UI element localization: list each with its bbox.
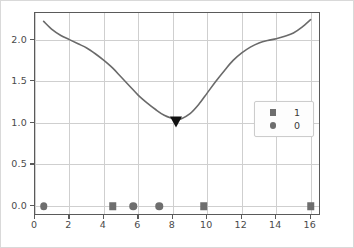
- y-tick-label: 2.0: [1, 33, 27, 44]
- data-point-square: [200, 202, 208, 210]
- data-point-square: [109, 202, 117, 210]
- legend-label: 1: [286, 107, 308, 118]
- data-point-circle: [129, 202, 137, 210]
- y-tick-label: 0.0: [1, 200, 27, 211]
- data-point-circle: [155, 202, 163, 210]
- legend-label: 0: [286, 120, 308, 131]
- x-tick-label: 16: [300, 219, 320, 230]
- square-marker-icon: [260, 109, 286, 116]
- y-tick-label: 0.5: [1, 158, 27, 169]
- x-tick-label: 2: [58, 219, 78, 230]
- x-tick-label: 14: [265, 219, 285, 230]
- x-tick-label: 0: [24, 219, 44, 230]
- chart-figure: 02468101214160.00.51.01.52.0 10: [0, 0, 354, 248]
- x-tick-label: 10: [196, 219, 216, 230]
- y-tick-label: 1.0: [1, 116, 27, 127]
- chart-legend[interactable]: 10: [254, 101, 314, 137]
- y-tick-label: 1.5: [1, 75, 27, 86]
- data-point-square: [307, 202, 315, 210]
- data-point-circle: [40, 202, 48, 210]
- circle-marker-icon: [260, 122, 286, 129]
- legend-item-0[interactable]: 0: [260, 119, 308, 132]
- x-tick-label: 8: [162, 219, 182, 230]
- x-tick-label: 6: [127, 219, 147, 230]
- x-tick-label: 4: [93, 219, 113, 230]
- legend-item-1[interactable]: 1: [260, 106, 308, 119]
- data-point-triangle-down: [170, 116, 182, 127]
- x-tick-label: 12: [231, 219, 251, 230]
